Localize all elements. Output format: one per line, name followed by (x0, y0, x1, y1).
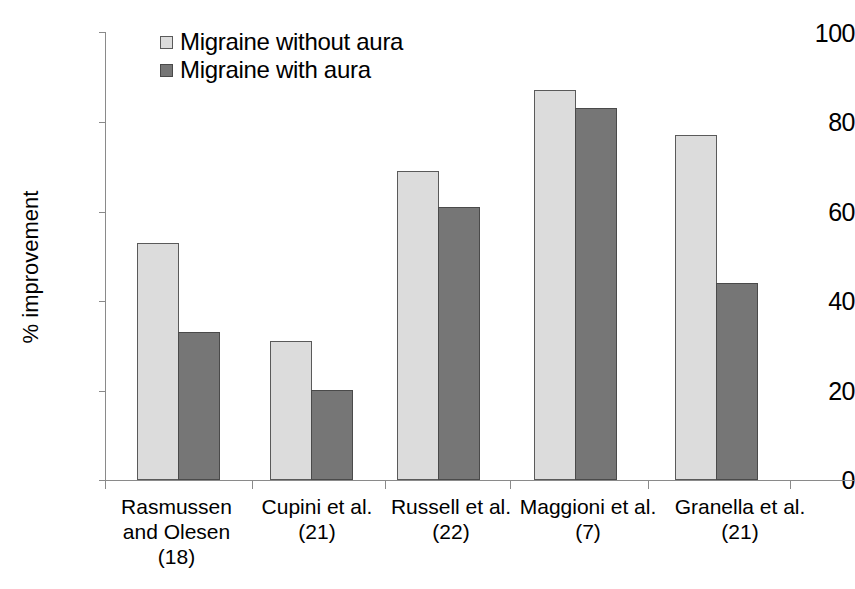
legend-item-with-aura: Migraine with aura (160, 56, 403, 84)
y-axis-title: % improvement (19, 162, 43, 372)
bar-with-aura-0 (178, 332, 220, 480)
bar-group-3 (534, 32, 618, 480)
x-category-label-1: Cupini et al. (21) (247, 494, 387, 544)
legend: Migraine without aura Migraine with aura (160, 28, 403, 84)
bar-with-aura-1 (311, 390, 353, 480)
bar-group-2 (397, 32, 481, 480)
x-tick-mark-5 (790, 481, 791, 489)
bar-group-1 (270, 32, 354, 480)
legend-swatch-icon-without-aura (160, 36, 173, 49)
legend-swatch-icon-with-aura (160, 64, 173, 77)
bar-with-aura-3 (575, 108, 617, 480)
bar-group-4 (675, 32, 759, 480)
bar-group-0 (137, 32, 221, 480)
bar-without-aura-3 (534, 90, 576, 480)
x-tick-mark-3 (510, 481, 511, 489)
x-axis-line (105, 480, 855, 481)
plot-area (105, 32, 855, 480)
bar-without-aura-2 (397, 171, 439, 480)
bar-without-aura-0 (137, 243, 179, 480)
x-tick-mark-2 (385, 481, 386, 489)
legend-label-with-aura: Migraine with aura (180, 57, 371, 83)
x-category-label-2: Russell et al. (22) (381, 494, 521, 544)
bar-with-aura-2 (438, 207, 480, 480)
x-category-label-3: Maggioni et al. (7) (508, 494, 668, 544)
legend-label-without-aura: Migraine without aura (180, 29, 403, 55)
x-tick-mark-4 (648, 481, 649, 489)
bar-without-aura-1 (270, 341, 312, 480)
x-category-label-4: Granella et al. (21) (660, 494, 820, 544)
bar-without-aura-4 (675, 135, 717, 480)
bar-chart: % improvement 100 80 60 40 20 0 (0, 0, 855, 589)
bar-with-aura-4 (716, 283, 758, 480)
x-category-label-0: Rasmussen and Olesen (18) (104, 494, 249, 569)
x-tick-mark-0 (105, 481, 106, 489)
legend-item-without-aura: Migraine without aura (160, 28, 403, 56)
x-tick-mark-1 (252, 481, 253, 489)
